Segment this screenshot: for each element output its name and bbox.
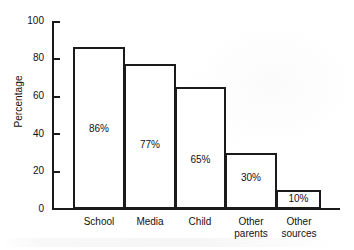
y-tick-mark-40 (54, 133, 60, 135)
y-tick-mark-60 (54, 96, 60, 98)
y-tick-label-0: 0 (14, 204, 44, 214)
y-axis-line (52, 21, 54, 210)
bar-label-media: 77% (124, 140, 176, 150)
bar-label-child: 65% (175, 155, 226, 165)
y-tick-mark-100 (54, 21, 60, 23)
x-category-other-sources: Other sources (269, 216, 329, 239)
y-tick-label-80: 80 (14, 53, 44, 63)
scan-artifact-line (0, 238, 354, 247)
y-tick-mark-20 (54, 171, 60, 173)
bar-label-other-sources: 10% (276, 194, 321, 204)
y-tick-label-40: 40 (14, 129, 44, 139)
y-tick-label-100: 100 (14, 16, 44, 26)
y-tick-label-20: 20 (14, 166, 44, 176)
bar-chart: Percentage 100 80 60 40 20 0 86% 77% 65%… (0, 0, 354, 250)
y-tick-label-60: 60 (14, 91, 44, 101)
bar-media[interactable] (124, 64, 176, 209)
bar-label-school: 86% (73, 124, 125, 134)
y-tick-mark-80 (54, 58, 60, 60)
bar-child[interactable] (175, 87, 226, 209)
bar-label-other-parents: 30% (225, 173, 277, 183)
